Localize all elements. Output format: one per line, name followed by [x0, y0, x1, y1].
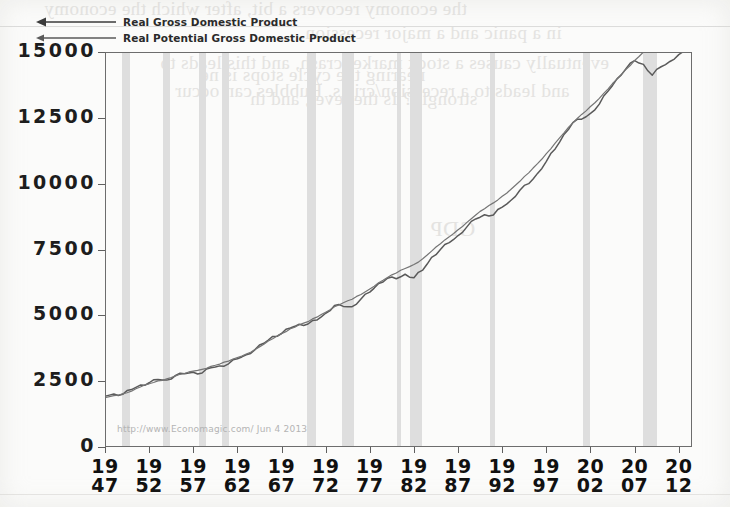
line-real-gdp — [105, 52, 688, 396]
x-tick-mark — [546, 447, 547, 453]
x-tick-label-1992: 1992 — [480, 457, 524, 495]
y-tick-mark — [98, 118, 105, 119]
x-tick-label-1947: 1947 — [83, 457, 127, 495]
x-tick-mark — [282, 447, 283, 453]
leader-arrow-icon-1 — [36, 16, 116, 28]
source-watermark: http://www.Economagic.com/ Jun 4 2013 — [117, 424, 307, 434]
x-tick-label-2007: 2007 — [613, 457, 657, 495]
y-tick-mark — [98, 315, 105, 316]
x-tick-label-1997: 1997 — [524, 457, 568, 495]
x-tick-label-1957: 1957 — [171, 457, 215, 495]
y-tick-mark — [98, 184, 105, 185]
plot-frame-top — [105, 52, 692, 53]
x-tick-mark — [635, 447, 636, 453]
x-tick-mark — [237, 447, 238, 453]
legend-item-real-gdp: Real Gross Domestic Product — [36, 16, 297, 28]
x-tick-mark — [679, 447, 680, 453]
x-tick-mark — [502, 447, 503, 453]
gdp-series-lines — [105, 52, 692, 447]
y-tick-label-2500: 2500 — [0, 368, 96, 390]
y-tick-label-7500: 7500 — [0, 237, 96, 259]
x-tick-mark — [105, 447, 106, 453]
legend-label-potential-gdp: Real Potential Gross Domestic Product — [123, 32, 356, 44]
x-tick-label-1977: 1977 — [348, 457, 392, 495]
leader-arrow-icon-2 — [36, 32, 116, 44]
x-tick-label-1987: 1987 — [436, 457, 480, 495]
x-tick-label-1982: 1982 — [392, 457, 436, 495]
x-tick-label-1952: 1952 — [127, 457, 171, 495]
x-tick-label-1972: 1972 — [304, 457, 348, 495]
legend-label-real-gdp: Real Gross Domestic Product — [123, 16, 297, 28]
y-tick-label-10000: 10000 — [0, 171, 96, 193]
y-tick-mark — [98, 52, 105, 53]
plot-frame-left — [105, 52, 106, 447]
y-tick-mark — [98, 447, 105, 448]
y-tick-label-12500: 12500 — [0, 105, 96, 127]
chart-plot-area: http://www.Economagic.com/ Jun 4 2013 — [105, 52, 692, 447]
y-tick-label-5000: 5000 — [0, 302, 96, 324]
x-tick-label-2012: 2012 — [657, 457, 701, 495]
x-tick-label-1967: 1967 — [260, 457, 304, 495]
x-tick-mark — [370, 447, 371, 453]
x-tick-mark — [149, 447, 150, 453]
x-tick-mark — [590, 447, 591, 453]
x-tick-mark — [458, 447, 459, 453]
x-tick-mark — [193, 447, 194, 453]
plot-frame-right — [691, 52, 692, 447]
legend-item-potential-gdp: Real Potential Gross Domestic Product — [36, 32, 356, 44]
x-tick-mark — [326, 447, 327, 453]
y-tick-mark — [98, 381, 105, 382]
x-tick-label-1962: 1962 — [215, 457, 259, 495]
x-tick-label-2002: 2002 — [568, 457, 612, 495]
y-tick-label-0: 0 — [0, 434, 96, 456]
x-tick-mark — [414, 447, 415, 453]
y-tick-mark — [98, 250, 105, 251]
